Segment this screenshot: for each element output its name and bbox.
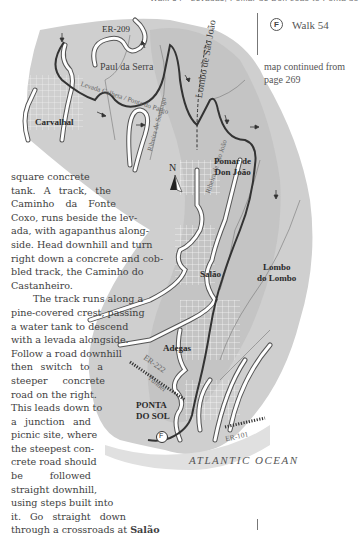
walk-tag: F Walk 54: [270, 18, 329, 31]
map-continued-note: map continued from page 269: [264, 60, 354, 86]
text-line: This leads down to: [11, 401, 151, 415]
text-line: Caminho da Fonte: [11, 197, 116, 211]
text-line: with a levada alongside.: [11, 333, 151, 347]
map-label-er209: ER-209: [102, 24, 130, 34]
text-line: Castanheiro.: [11, 279, 151, 293]
map-label-carvalhal: Carvalhal: [35, 117, 74, 127]
north-label: N: [169, 162, 176, 173]
text-line: straight downhill,: [11, 483, 151, 497]
text-line: the steepest con-: [11, 442, 151, 456]
text-line: a water tank to descend: [11, 320, 151, 334]
map-label-atlantic-ocean: ATLANTIC OCEAN: [189, 454, 299, 466]
finish-marker-map-icon: F: [159, 432, 163, 439]
text-line: bled track, the Caminho do: [11, 265, 151, 279]
text-line: Follow a road downhill: [11, 347, 151, 361]
margin-rule: [257, 13, 258, 55]
walk-description: square concrete tank. A track, the Camin…: [11, 170, 151, 537]
text-line: right down a concrete and cob-: [11, 252, 151, 266]
map-label-pomar-de-don-joao: Pomar de Don João: [214, 156, 251, 178]
map-label-lombo-do-lombo: Lombo do Lombo: [257, 262, 296, 284]
walk-label: Walk 54: [292, 19, 329, 31]
text-line: crete road should: [11, 455, 151, 469]
text-line: road on the right.: [11, 388, 151, 402]
text-line: side. Head downhill and turn: [11, 238, 151, 252]
margin-rule-bottom: [257, 519, 258, 530]
text-line: it. Go straight down: [11, 510, 126, 524]
text-line: using steps built into: [11, 496, 151, 510]
text-line: pine-covered crest, passing: [11, 306, 151, 320]
text-line: Coxo, runs beside the lev-: [11, 211, 151, 225]
running-header: Walk 54 · Levadas, Pomar de Don João to …: [150, 0, 360, 4]
text-line: square concrete: [11, 170, 119, 184]
map-label-adegas: Adegas: [163, 343, 191, 353]
place-salao: Salão: [130, 524, 159, 535]
text-line: be followed: [11, 469, 91, 483]
text-line: picnic site, where: [11, 428, 151, 442]
text-line: tank. A track, the: [11, 184, 111, 198]
text-line: ada, with agapanthus along-: [11, 224, 151, 238]
text-line-last: through a crossroads at Salão: [11, 523, 151, 537]
text-line: then switch to a: [11, 360, 103, 374]
text-line: The track runs along a: [11, 292, 151, 306]
text-line: a junction and: [11, 415, 91, 429]
text-line: steeper concrete: [11, 374, 105, 388]
map-label-paul-da-serra: Paul da Serra: [100, 61, 153, 72]
map-label-salao: Salão: [200, 269, 221, 279]
finish-marker-icon: F: [270, 18, 283, 31]
